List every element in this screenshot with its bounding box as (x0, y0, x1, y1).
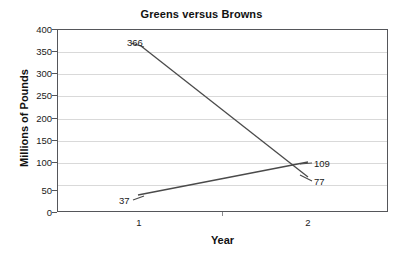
y-tick-mark-150 (52, 140, 57, 141)
y-tick-label-250: 250 (12, 91, 52, 101)
y-tick-label-100: 100 (12, 158, 52, 168)
y-tick-mark-50 (52, 190, 57, 191)
point-label-366: 366 (127, 38, 143, 48)
gridline-100 (58, 163, 387, 164)
y-tick-mark-100 (52, 162, 57, 163)
y-tick-mark-300 (52, 73, 57, 74)
point-label-37: 37 (119, 196, 130, 206)
y-tick-mark-400 (52, 29, 57, 30)
y-tick-label-0: 0 (12, 208, 52, 218)
y-tick-mark-200 (52, 118, 57, 119)
y-tick-label-400: 400 (12, 25, 52, 35)
line-chart: Greens versus Browns Millions of Pounds … (0, 0, 403, 260)
plot-area (57, 29, 388, 212)
gridline-300 (58, 74, 387, 75)
y-tick-mark-350 (52, 51, 57, 52)
y-tick-mark-0 (52, 212, 57, 213)
y-tick-label-200: 200 (12, 114, 52, 124)
gridline-150 (58, 141, 387, 142)
gridline-250 (58, 96, 387, 97)
gridline-350 (58, 52, 387, 53)
y-tick-label-50: 50 (12, 186, 52, 196)
x-axis-title: Year (57, 234, 388, 246)
point-label-77: 77 (314, 177, 325, 187)
gridline-200 (58, 119, 387, 120)
y-tick-mark-250 (52, 95, 57, 96)
x-tick-label-1: 1 (119, 218, 159, 228)
y-tick-label-350: 350 (12, 47, 52, 57)
chart-title: Greens versus Browns (0, 8, 403, 20)
gridline-50 (58, 185, 387, 186)
point-label-109: 109 (314, 159, 330, 169)
y-axis-tick-labels: 400 350 300 250 200 150 100 50 0 (8, 0, 52, 260)
y-tick-label-300: 300 (12, 69, 52, 79)
x-tick-label-2: 2 (288, 218, 328, 228)
y-tick-label-150: 150 (12, 136, 52, 146)
x-tick-mark-mid (222, 212, 223, 216)
